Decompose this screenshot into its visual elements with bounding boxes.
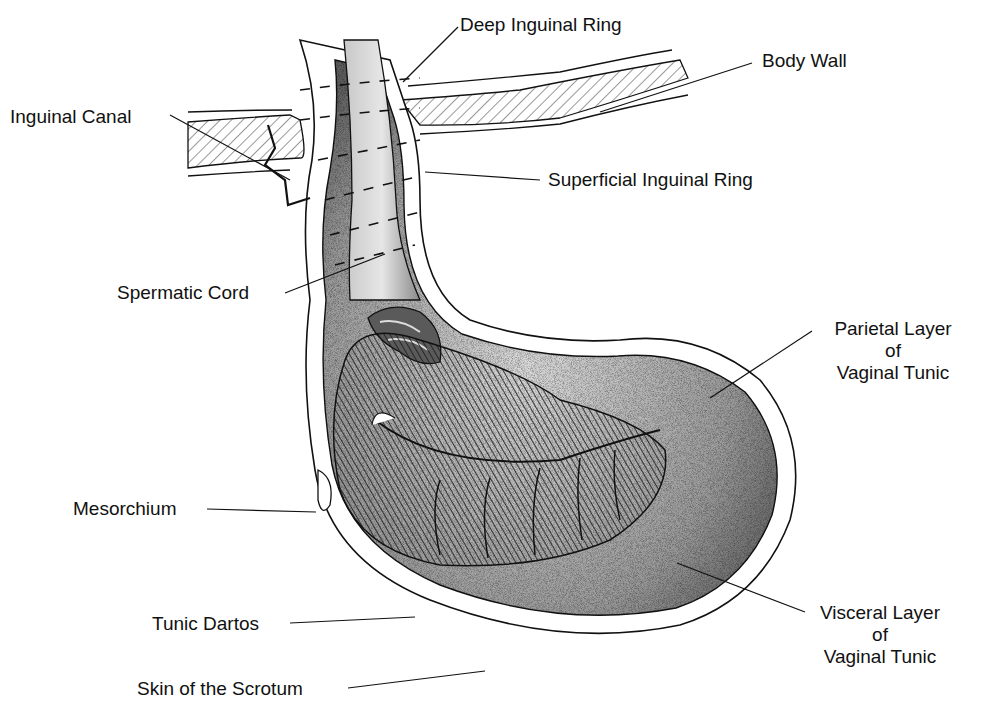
label-parietal-line1: Parietal Layer [818, 318, 968, 340]
anatomy-figure: Deep Inguinal Ring Body Wall Inguinal Ca… [0, 0, 981, 718]
label-visceral-line1: Visceral Layer [805, 602, 955, 624]
body-wall-left [188, 110, 304, 176]
body-wall-right [400, 50, 688, 134]
label-visceral-layer: Visceral Layer of Vaginal Tunic [805, 602, 955, 668]
label-superficial-inguinal-ring: Superficial Inguinal Ring [548, 169, 753, 191]
label-visceral-line2: of [805, 624, 955, 646]
label-skin-of-scrotum: Skin of the Scrotum [137, 678, 303, 700]
label-mesorchium: Mesorchium [73, 498, 176, 520]
label-parietal-layer: Parietal Layer of Vaginal Tunic [818, 318, 968, 384]
label-parietal-line3: Vaginal Tunic [818, 362, 968, 384]
label-spermatic-cord: Spermatic Cord [117, 282, 249, 304]
label-visceral-line3: Vaginal Tunic [805, 646, 955, 668]
label-deep-inguinal-ring: Deep Inguinal Ring [460, 14, 622, 36]
label-tunic-dartos: Tunic Dartos [152, 613, 259, 635]
label-body-wall: Body Wall [762, 50, 847, 72]
label-inguinal-canal: Inguinal Canal [10, 106, 131, 128]
label-parietal-line2: of [818, 340, 968, 362]
